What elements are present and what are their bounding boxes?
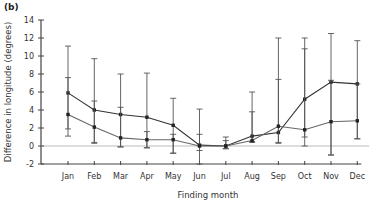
y-axis-label: Difference in longitude (degrees) [3, 22, 13, 163]
y-tick-label: 6 [29, 88, 34, 97]
x-tick-label: Jan [61, 172, 74, 181]
data-point [356, 119, 359, 122]
x-tick-label: Apr [140, 172, 155, 181]
x-tick-label: May [165, 172, 182, 181]
x-tick-label: Nov [323, 172, 339, 181]
x-tick-label: Oct [298, 172, 312, 181]
data-point [93, 125, 96, 128]
data-point [172, 138, 175, 141]
line-chart: -202468101214JanFebMarAprMayJunJulAugSep… [0, 0, 374, 206]
x-tick-label: Jun [192, 172, 206, 181]
chart-container: (b) -202468101214JanFebMarAprMayJunJulAu… [0, 0, 374, 206]
data-point [303, 128, 306, 131]
y-tick-label: 0 [29, 142, 34, 151]
y-tick-label: -2 [26, 160, 34, 169]
y-tick-label: 8 [29, 70, 34, 79]
data-point [66, 113, 69, 116]
y-tick-label: 12 [24, 34, 34, 43]
y-tick-label: 10 [24, 52, 34, 61]
y-tick-label: 14 [24, 16, 34, 25]
series-line-series-upper [68, 82, 357, 146]
data-point [145, 138, 148, 141]
y-tick-label: 2 [29, 124, 34, 133]
data-point [224, 144, 227, 147]
x-tick-label: Mar [113, 172, 129, 181]
data-point [277, 125, 280, 128]
x-tick-label: Sep [271, 172, 286, 181]
data-point [250, 139, 253, 142]
data-point [145, 116, 148, 119]
x-axis-label: Finding month [178, 190, 239, 200]
x-tick-label: Dec [350, 172, 365, 181]
x-tick-label: Feb [87, 172, 101, 181]
data-point [119, 136, 122, 139]
x-tick-label: Jul [220, 172, 231, 181]
data-point [172, 124, 175, 127]
data-point [329, 120, 332, 123]
x-tick-label: Aug [244, 172, 260, 181]
series-line-series-lower [68, 115, 357, 147]
data-point [198, 144, 201, 147]
y-tick-label: 4 [29, 106, 34, 115]
